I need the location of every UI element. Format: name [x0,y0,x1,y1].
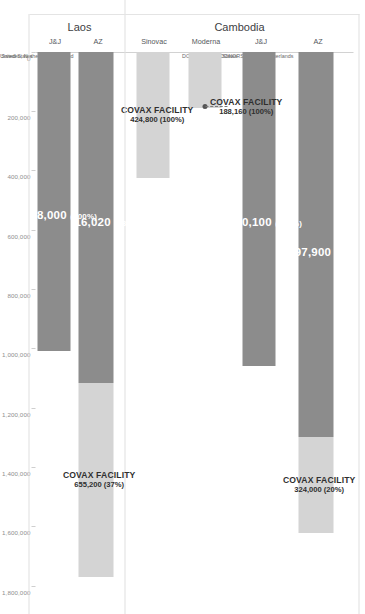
axis-tick-1 [31,111,35,112]
chart-bottom-border [28,14,29,614]
bar-segment-bilateral[interactable] [37,52,70,351]
chart-frame-line [29,14,359,15]
axis-tick-label-4: 800,000 [7,292,30,299]
axis-tick-label-3: 600,000 [7,233,30,240]
axis-tick-3 [31,230,35,231]
axis-tick-label-6: 1,200,000 [2,411,30,418]
axis-tick-label-9: 1,800,000 [2,589,30,596]
chart-canvas: 0 200,000 400,000 600,000 800,000 1,000,… [0,0,365,614]
group-label-laos: Laos [24,21,134,33]
bar-value-label: 1,008,000 (100%) [0,209,150,221]
covax-block-label: COVAX FACILITY 324,000 (20%) [279,476,359,495]
covax-callout-label: COVAX FACILITY 188,160 (100%) [206,98,286,117]
axis-tick-label-7: 1,400,000 [2,470,30,477]
axis-tick-6 [31,408,35,409]
plot-area: 0 200,000 400,000 600,000 800,000 1,000,… [35,52,353,586]
axis-tick-8 [31,526,35,527]
bar-cambodia-sinovac[interactable]: COVAX FACILITY 424,800 (100%) [136,52,169,178]
covax-block-label: COVAX FACILITY 655,200 (37%) [59,471,139,490]
bar-cambodia-az[interactable]: 1,297,900 (80%) COVAX FACILITY 324,000 (… [298,52,333,533]
axis-tick-4 [31,289,35,290]
axis-tick-5 [31,348,35,349]
category-label-laos-az: AZ [76,37,120,46]
axis-tick-label-5: 1,000,000 [2,351,30,358]
axis-tick-label-2: 400,000 [7,173,30,180]
axis-tick-9 [31,586,35,587]
bar-value-label: 1,060,100 (100%) [165,216,355,228]
category-label-cambodia-az: AZ [296,37,340,46]
group-separator [124,0,125,614]
category-label-cambodia-jj: J&J [239,37,283,46]
bar-laos-az[interactable]: 1,116,020 (63%) COVAX FACILITY 655,200 (… [78,52,113,577]
axis-tick-7 [31,467,35,468]
axis-tick-label-8: 1,600,000 [2,529,30,536]
group-label-cambodia: Cambodia [184,21,294,33]
donor-label-laos-jj: DONOR: United States [0,53,32,59]
chart-top-border [358,14,359,614]
covax-block-label: COVAX FACILITY 424,800 (100%) [117,106,197,125]
bar-segment-bilateral[interactable] [298,52,333,437]
axis-tick-2 [31,170,35,171]
category-label-cambodia-moderna: Moderna [184,37,228,46]
category-label-cambodia-sinovac: Sinovac [132,37,176,46]
rotated-chart-frame: 0 200,000 400,000 600,000 800,000 1,000,… [0,0,365,614]
category-label-laos-jj: J&J [33,37,77,46]
bar-value-label: 1,297,900 (80%) [217,246,365,258]
bar-laos-jj[interactable]: 1,008,000 (100%) [37,52,70,351]
axis-tick-label-1: 200,000 [7,114,30,121]
